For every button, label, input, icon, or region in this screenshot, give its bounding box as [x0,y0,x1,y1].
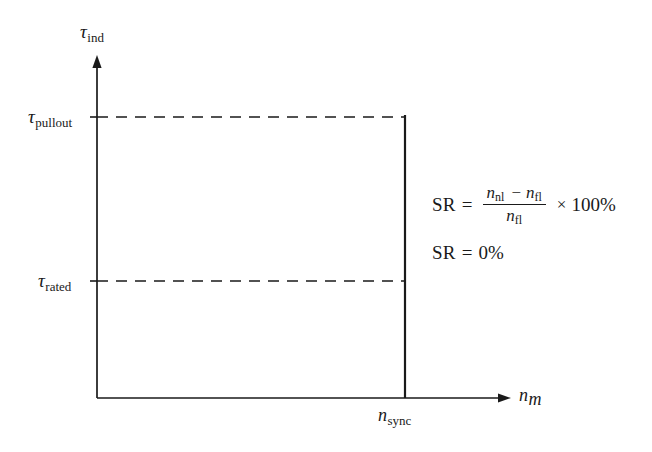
equation-slip-value: SR = 0% [432,242,642,264]
y-tick-label-pullout: τpullout [28,107,72,126]
x-axis-label-symbol: n [519,385,528,405]
percent-factor: 100% [571,194,615,216]
numerator-minus-operator: − [511,183,521,202]
equation-slip-value-result: 0% [479,242,504,264]
equation-slip-regulation-lhs: SR [432,194,456,216]
figure-canvas: τind τpullout τrated nm nsync SR = nnl−n… [0,0,652,452]
multiplication-operator: × [557,195,567,215]
y-axis-label-subscript: ind [87,30,104,45]
x-tick-label-sync-subscript: sync [388,413,412,428]
fraction-numerator: nnl−nfl [483,183,546,204]
x-axis-label-subscript: m [529,389,542,409]
equation-slip-value-lhs: SR [432,242,456,264]
annotation-block: SR = nnl−nfl nfl × 100% SR = 0% [432,183,642,264]
y-tick-label-pullout-symbol: τ [28,106,35,127]
y-axis-label: τind [80,22,103,41]
y-tick-label-rated-subscript: rated [45,279,71,294]
denominator-subscript: fl [515,213,522,227]
fraction-denominator: nfl [502,205,526,226]
x-axis [97,393,511,402]
x-tick-label-sync-symbol: n [378,405,387,425]
equation-slip-value-equals: = [462,242,473,264]
numerator-second-subscript: fl [535,190,542,204]
x-axis-label: nm [519,386,541,404]
equation-slip-regulation-equals: = [462,194,473,216]
fraction-slip: nnl−nfl nfl [483,183,546,226]
denominator-symbol: n [506,206,515,225]
y-tick-label-pullout-subscript: pullout [35,115,72,130]
numerator-first-subscript: nl [495,190,504,204]
y-axis-label-symbol: τ [80,21,87,42]
y-tick-label-rated: τrated [38,271,71,290]
y-tick-label-rated-symbol: τ [38,270,45,291]
numerator-second-symbol: n [526,183,535,202]
x-tick-label-sync: nsync [378,406,411,424]
numerator-first-symbol: n [487,183,496,202]
y-axis [92,55,101,398]
equation-slip-regulation: SR = nnl−nfl nfl × 100% [432,183,642,226]
